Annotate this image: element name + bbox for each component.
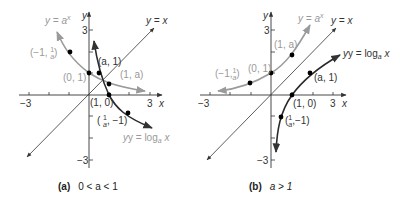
- y-max-label: 3: [82, 25, 88, 36]
- point-label-inv-a-neg1: (1a,−1): [285, 114, 310, 128]
- x-max-label: 3: [147, 98, 153, 109]
- y-max-label: 3: [264, 25, 270, 36]
- caption-a: (a)0 < a < 1: [58, 181, 118, 192]
- y-axis-label: y: [262, 10, 269, 21]
- point-label-0-1: (0, 1): [63, 72, 86, 83]
- x-max-label: 3: [330, 98, 336, 109]
- point-label-neg1-inv-a: (−1,1a): [215, 67, 240, 81]
- point-label-neg1-inv-a: (−1, 1a): [30, 46, 57, 60]
- point-neg1-inv-a: [68, 50, 73, 55]
- x-axis-label: x: [341, 98, 348, 109]
- panel-a: −3 3 x 3 −3 y y = ax y = x yy = loga x (…: [19, 10, 170, 192]
- identity-curve-label: y = x: [145, 15, 168, 26]
- point-label-1-a: (1, a): [120, 69, 143, 80]
- y-axis-label: y: [81, 10, 88, 21]
- identity-curve-label: y = x: [330, 15, 353, 26]
- x-min-label: −3: [20, 98, 32, 109]
- point-1-a: [107, 82, 112, 87]
- log-curve-label: yy = loga x: [122, 132, 170, 144]
- point-inv-a-neg1: [279, 115, 284, 120]
- caption-b: (b)a > 1: [249, 181, 292, 192]
- point-label-1-a: (1, a): [274, 39, 297, 50]
- exp-curve-label: y = ax: [44, 14, 71, 26]
- y-min-label: −3: [77, 155, 89, 166]
- identity-line: [207, 28, 336, 160]
- point-label-inv-a-neg1: ( 1a, −1): [97, 114, 127, 128]
- point-0-1: [87, 71, 92, 76]
- point-1-a: [290, 53, 295, 58]
- y-min-label: −3: [257, 155, 269, 166]
- point-label-a-1: (a, 1): [314, 72, 337, 83]
- x-axis-label: x: [158, 98, 165, 109]
- point-label-1-0: (1, 0): [293, 98, 316, 109]
- inverse-functions-diagram: −3 3 x 3 −3 y y = ax y = x yy = loga x (…: [0, 0, 400, 205]
- point-label-1-0: (1, 0): [90, 97, 113, 108]
- point-neg1-inv-a: [248, 81, 253, 86]
- point-label-0-1: (0, 1): [248, 63, 271, 74]
- panel-b: −3 3 x 3 −3 y y = ax y = x yy = loga x (…: [198, 10, 390, 192]
- point-label-a-1: (a, 1): [98, 56, 121, 67]
- point-a-1: [97, 71, 102, 76]
- log-curve-label: yy = loga x: [342, 48, 390, 60]
- point-a-1: [308, 71, 313, 76]
- point-1-0: [290, 93, 295, 98]
- exp-curve-label: y = ax: [297, 12, 324, 24]
- x-min-label: −3: [198, 98, 210, 109]
